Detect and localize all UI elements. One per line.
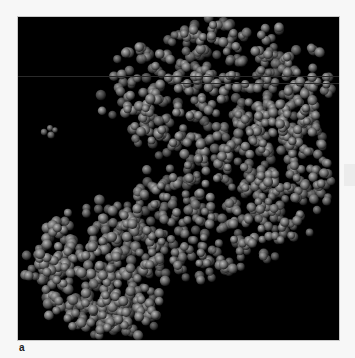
side-tab-marker xyxy=(344,164,355,186)
scan-line-artifact xyxy=(168,83,339,84)
scan-line-artifact xyxy=(18,76,339,77)
molecule-render-panel xyxy=(18,17,339,340)
space-filling-molecule-model xyxy=(18,17,339,340)
panel-label: a xyxy=(19,342,25,353)
